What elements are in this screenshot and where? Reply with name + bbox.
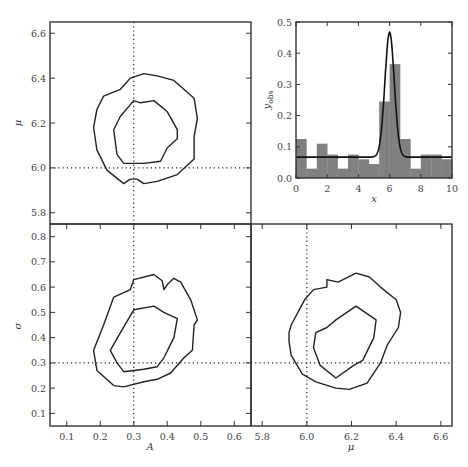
- x-tick-label: 4: [355, 183, 361, 194]
- y-tick-label: 0.5: [31, 307, 46, 318]
- histogram-bar: [327, 155, 338, 178]
- y-tick-label: 5.8: [31, 207, 46, 218]
- histogram-bar: [421, 155, 432, 178]
- panel-bottom-right: [251, 224, 452, 426]
- y-tick-label: 0.5: [277, 17, 292, 28]
- x-axis-label-A: A: [145, 441, 153, 452]
- x-tick-label: 0.5: [193, 431, 208, 442]
- y-axis-label-mu: μ: [12, 120, 23, 127]
- y-tick-label: 0.6: [31, 282, 46, 293]
- x-tick-label: 5.8: [255, 431, 270, 442]
- y-tick-label: 6.4: [31, 73, 46, 84]
- panel-frame: [50, 224, 251, 426]
- y-tick-label: 0.4: [277, 48, 292, 59]
- contour-outer: [94, 275, 198, 387]
- x-tick-label: 8: [418, 183, 424, 194]
- corner-plot: 5.86.06.26.46.60.10.20.30.40.50.60.10.20…: [0, 0, 468, 467]
- y-tick-label: 0.1: [277, 141, 292, 152]
- y-tick-label: 0.4: [31, 332, 46, 343]
- y-tick-label: 6.2: [31, 118, 46, 129]
- y-tick-label: 6.6: [31, 28, 46, 39]
- histogram-bar: [369, 164, 380, 178]
- axis-ticks: 0.10.20.30.40.50.60.10.20.30.40.50.60.70…: [31, 224, 251, 442]
- y-axis-label-sigma: σ: [12, 321, 23, 329]
- histogram-bar: [296, 139, 307, 178]
- x-tick-label: 6.0: [299, 431, 314, 442]
- y-tick-label: 0.8: [31, 231, 46, 242]
- y-tick-label: 0.3: [277, 79, 292, 90]
- x-tick-label: 6.4: [389, 431, 404, 442]
- histogram-bar: [358, 159, 369, 178]
- x-tick-label: 0.1: [59, 431, 74, 442]
- contour-inner: [114, 101, 178, 164]
- histogram-bar: [410, 169, 421, 178]
- panel-bottom-left: [50, 224, 251, 426]
- x-tick-label: 0.2: [93, 431, 108, 442]
- y-tick-label: 0.2: [277, 110, 292, 121]
- panel-top-left: [50, 22, 251, 224]
- histogram-bar: [442, 159, 453, 178]
- histogram-bar: [317, 144, 328, 178]
- x-tick-label: 0.3: [126, 431, 141, 442]
- panel-frame: [251, 224, 452, 426]
- y-tick-label: 6.0: [31, 162, 46, 173]
- histogram-bar: [431, 155, 442, 178]
- y-tick-label: 0.2: [31, 383, 46, 394]
- contour-inner: [110, 306, 177, 372]
- x-axis-label-mu: μ: [348, 441, 355, 452]
- y-tick-label: 0.7: [31, 256, 46, 267]
- axis-ticks: 5.86.06.26.46.6: [31, 28, 251, 219]
- panel-frame: [50, 22, 251, 224]
- contour-inner: [314, 306, 377, 378]
- histogram-bar: [400, 139, 411, 178]
- y-tick-label: 0.1: [31, 408, 46, 419]
- x-tick-label: 0.6: [227, 431, 242, 442]
- histogram-bar: [348, 155, 359, 178]
- panel-histogram: [296, 22, 452, 178]
- x-tick-label: 6.6: [433, 431, 448, 442]
- y-axis-label-yobs: yobs: [261, 90, 275, 110]
- y-tick-label: 0.3: [31, 357, 46, 368]
- x-tick-label: 0: [293, 183, 299, 194]
- y-tick-label: 0.0: [277, 173, 292, 184]
- x-axis-label-x: x: [371, 193, 377, 204]
- histogram-bar: [306, 169, 317, 178]
- x-tick-label: 0.4: [160, 431, 175, 442]
- x-tick-label: 2: [324, 183, 330, 194]
- contour-outer: [94, 74, 198, 184]
- x-tick-label: 6: [387, 183, 393, 194]
- histogram-bar: [338, 169, 349, 178]
- x-tick-label: 10: [446, 183, 458, 194]
- axis-ticks: 5.86.06.26.46.6: [255, 224, 449, 442]
